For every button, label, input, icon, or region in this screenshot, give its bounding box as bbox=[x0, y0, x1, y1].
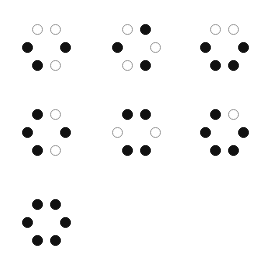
open-dot-middle-right bbox=[150, 127, 161, 138]
filled-dot-bottom-left bbox=[210, 145, 221, 156]
open-dot-top-right bbox=[50, 24, 61, 35]
filled-dot-top-right bbox=[140, 109, 151, 120]
open-dot-top-left bbox=[122, 24, 133, 35]
filled-dot-top-left bbox=[32, 199, 43, 210]
filled-dot-top-left bbox=[210, 109, 221, 120]
filled-dot-middle-left bbox=[200, 42, 211, 53]
filled-dot-bottom-right bbox=[228, 145, 239, 156]
filled-dot-bottom-left bbox=[32, 235, 43, 246]
filled-dot-bottom-right bbox=[140, 145, 151, 156]
filled-dot-top-left bbox=[122, 109, 133, 120]
pattern-figure-canvas bbox=[0, 0, 263, 270]
filled-dot-bottom-left bbox=[122, 145, 133, 156]
dot-pattern-3 bbox=[196, 24, 252, 80]
dot-pattern-2 bbox=[108, 24, 164, 80]
open-dot-middle-left bbox=[112, 127, 123, 138]
filled-dot-middle-left bbox=[200, 127, 211, 138]
open-dot-middle-right bbox=[150, 42, 161, 53]
open-dot-top-left bbox=[210, 24, 221, 35]
filled-dot-bottom-left bbox=[210, 60, 221, 71]
filled-dot-middle-right bbox=[60, 127, 71, 138]
open-dot-bottom-right bbox=[50, 60, 61, 71]
filled-dot-middle-right bbox=[60, 217, 71, 228]
filled-dot-top-right bbox=[50, 199, 61, 210]
open-dot-top-left bbox=[32, 24, 43, 35]
filled-dot-bottom-right bbox=[50, 235, 61, 246]
dot-pattern-1 bbox=[18, 24, 74, 80]
filled-dot-top-right bbox=[140, 24, 151, 35]
open-dot-bottom-left bbox=[122, 60, 133, 71]
filled-dot-bottom-left bbox=[32, 60, 43, 71]
open-dot-top-right bbox=[228, 109, 239, 120]
filled-dot-bottom-right bbox=[228, 60, 239, 71]
filled-dot-middle-left bbox=[112, 42, 123, 53]
open-dot-top-right bbox=[50, 109, 61, 120]
filled-dot-bottom-left bbox=[32, 145, 43, 156]
filled-dot-middle-left bbox=[22, 42, 33, 53]
dot-pattern-5 bbox=[108, 109, 164, 165]
dot-pattern-6 bbox=[196, 109, 252, 165]
filled-dot-bottom-right bbox=[140, 60, 151, 71]
filled-dot-middle-left bbox=[22, 217, 33, 228]
dot-pattern-7 bbox=[18, 199, 74, 255]
filled-dot-middle-right bbox=[238, 127, 249, 138]
filled-dot-middle-right bbox=[238, 42, 249, 53]
filled-dot-top-left bbox=[32, 109, 43, 120]
filled-dot-middle-left bbox=[22, 127, 33, 138]
open-dot-bottom-right bbox=[50, 145, 61, 156]
filled-dot-middle-right bbox=[60, 42, 71, 53]
open-dot-top-right bbox=[228, 24, 239, 35]
dot-pattern-4 bbox=[18, 109, 74, 165]
